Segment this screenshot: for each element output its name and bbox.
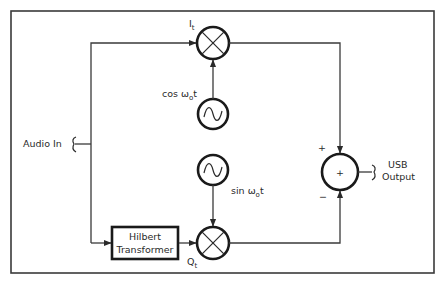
i-path-wire [229, 43, 340, 153]
sin-oscillator-icon [198, 155, 228, 185]
output-terminal-icon [372, 165, 375, 180]
ssb-block-diagram: Audio In It cos ωot sin ωot Hilbert Tran… [0, 0, 442, 281]
summer-plus-label: + [318, 142, 326, 153]
input-wires [75, 43, 196, 243]
usb-label: USB [388, 159, 408, 170]
hilbert-label-line1: Hilbert [129, 231, 161, 242]
q-label: Qt [187, 256, 197, 270]
i-label: It [189, 18, 195, 32]
output-label: Output [382, 171, 415, 182]
cos-oscillator-icon [198, 99, 228, 129]
audio-in-label: Audio In [23, 138, 62, 149]
hilbert-label-line2: Transformer [115, 244, 173, 255]
i-mixer [197, 27, 229, 59]
summer-minus-label: − [319, 191, 327, 202]
cos-label: cos ωot [162, 88, 197, 102]
q-mixer [197, 227, 229, 259]
summer: + [322, 154, 358, 190]
svg-text:+: + [336, 167, 344, 178]
sin-label: sin ωot [231, 185, 264, 199]
